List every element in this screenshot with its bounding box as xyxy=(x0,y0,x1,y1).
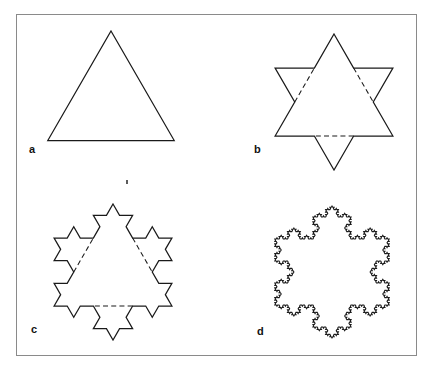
panel-label-b: b xyxy=(254,144,261,155)
figure-root: a b c d xyxy=(0,0,433,371)
print-artifact-speck xyxy=(126,180,128,184)
panel-label-c: c xyxy=(31,324,37,335)
figure-frame xyxy=(16,14,417,356)
panel-label-d: d xyxy=(257,326,264,337)
panel-label-a: a xyxy=(29,144,35,155)
